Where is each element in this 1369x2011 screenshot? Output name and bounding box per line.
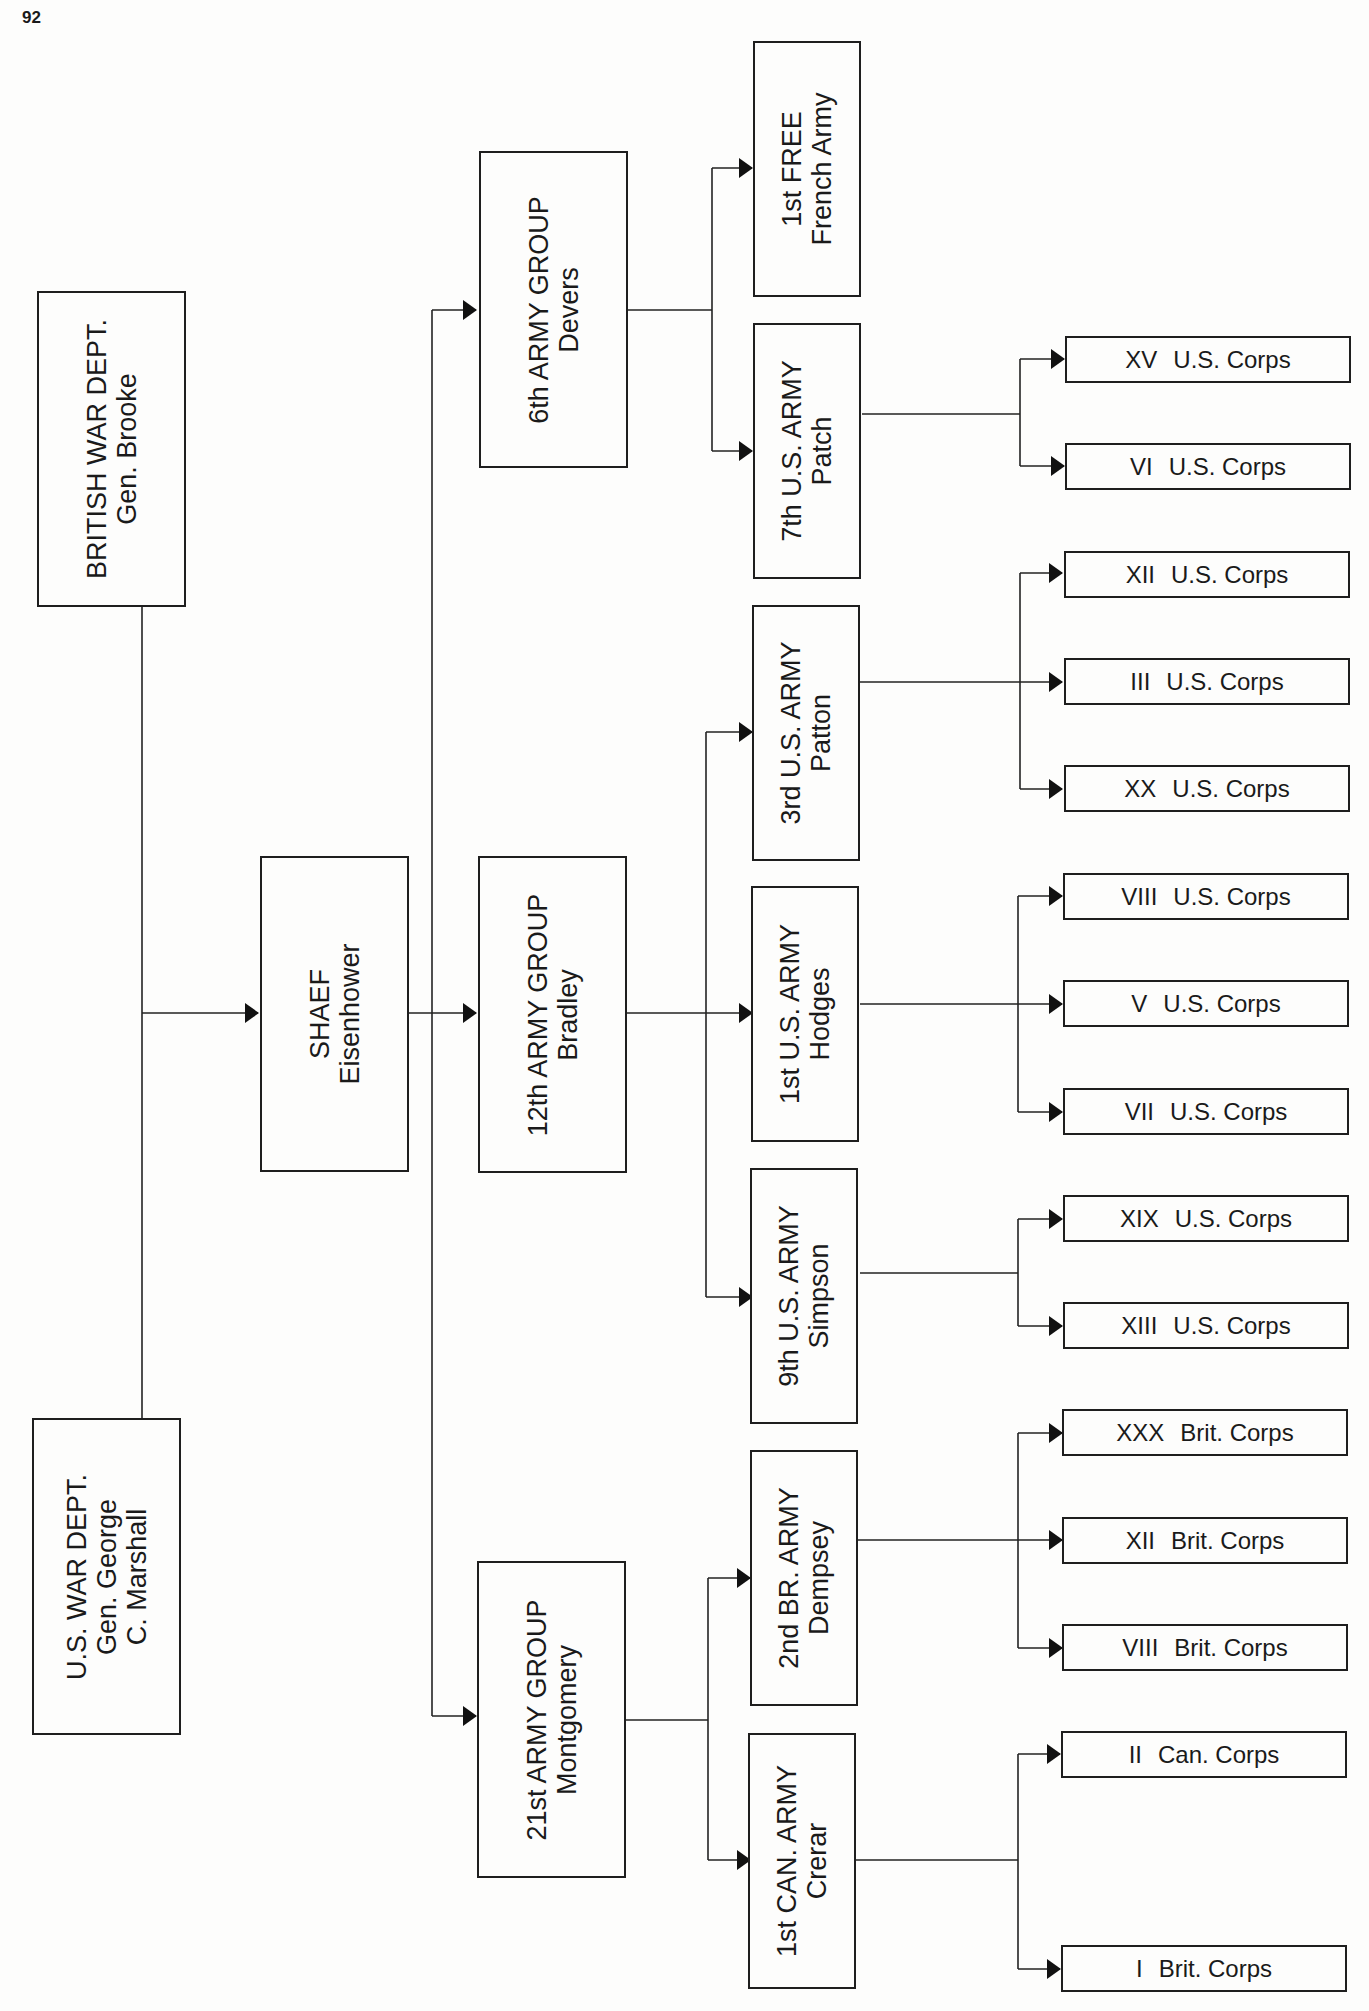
node-commander: Patton xyxy=(806,641,836,824)
node-title: 6th ARMY GROUP xyxy=(524,196,554,424)
corps-name: U.S. Corps xyxy=(1172,775,1289,803)
node-21st-army-group: 21st ARMY GROUP Montgomery xyxy=(477,1561,626,1878)
node-commander: Montgomery xyxy=(552,1599,582,1840)
node-title: 1st FREE xyxy=(777,92,807,245)
corps-number: VII xyxy=(1125,1098,1154,1126)
corps-number: II xyxy=(1129,1741,1142,1769)
corps-name: U.S. Corps xyxy=(1170,1098,1287,1126)
corps-number: XIX xyxy=(1120,1205,1159,1233)
node-title: 9th U.S. ARMY xyxy=(774,1205,804,1387)
corps-name: U.S. Corps xyxy=(1173,1312,1290,1340)
corps-box: IBrit. Corps xyxy=(1061,1945,1347,1992)
node-7th-us-army: 7th U.S. ARMY Patch xyxy=(753,323,861,579)
node-commander: Bradley xyxy=(553,893,583,1136)
corps-name: U.S. Corps xyxy=(1163,990,1280,1018)
corps-number: VIII xyxy=(1121,883,1157,911)
node-commander: Hodges xyxy=(805,924,835,1104)
node-title: 7th U.S. ARMY xyxy=(777,360,807,542)
corps-name: U.S. Corps xyxy=(1173,346,1290,374)
corps-number: V xyxy=(1131,990,1147,1018)
node-us-war-dept: U.S. WAR DEPT. Gen. George C. Marshall xyxy=(32,1418,181,1735)
corps-name: U.S. Corps xyxy=(1175,1205,1292,1233)
corps-number: VIII xyxy=(1122,1634,1158,1662)
node-title: 1st CAN. ARMY xyxy=(772,1765,802,1957)
node-1st-free-french-army: 1st FREE French Army xyxy=(753,41,861,297)
corps-box: VIIU.S. Corps xyxy=(1063,1088,1349,1135)
node-commander: Crerar xyxy=(802,1765,832,1957)
corps-box: XIIU.S. Corps xyxy=(1064,551,1350,598)
node-british-war-dept: BRITISH WAR DEPT. Gen. Brooke xyxy=(37,291,186,607)
node-title: BRITISH WAR DEPT. xyxy=(82,319,112,579)
node-12th-army-group: 12th ARMY GROUP Bradley xyxy=(478,856,627,1173)
node-commander: Eisenhower xyxy=(335,943,365,1084)
node-title: 3rd U.S. ARMY xyxy=(776,641,806,824)
node-commander-cont: C. Marshall xyxy=(122,1473,152,1679)
corps-name: U.S. Corps xyxy=(1166,668,1283,696)
node-commander: Dempsey xyxy=(804,1487,834,1669)
node-shaef: SHAEF Eisenhower xyxy=(260,856,409,1172)
corps-name: Brit. Corps xyxy=(1171,1527,1284,1555)
node-commander: Gen. Brooke xyxy=(112,319,142,579)
corps-box: VIIIU.S. Corps xyxy=(1063,873,1349,920)
corps-name: Brit. Corps xyxy=(1159,1955,1272,1983)
node-title: 2nd BR. ARMY xyxy=(774,1487,804,1669)
corps-number: XIII xyxy=(1121,1312,1157,1340)
node-title: 12th ARMY GROUP xyxy=(523,893,553,1136)
corps-box: XVU.S. Corps xyxy=(1065,336,1351,383)
node-3rd-us-army: 3rd U.S. ARMY Patton xyxy=(752,605,860,861)
node-1st-us-army: 1st U.S. ARMY Hodges xyxy=(751,886,859,1142)
node-title-cont: French Army xyxy=(807,92,837,245)
corps-box: XIIBrit. Corps xyxy=(1062,1517,1348,1564)
corps-number: XX xyxy=(1124,775,1156,803)
corps-box: XIIIU.S. Corps xyxy=(1063,1302,1349,1349)
node-commander: Devers xyxy=(554,196,584,424)
corps-number: VI xyxy=(1130,453,1153,481)
node-1st-can-army: 1st CAN. ARMY Crerar xyxy=(748,1733,856,1989)
node-2nd-br-army: 2nd BR. ARMY Dempsey xyxy=(750,1450,858,1706)
corps-box: XIXU.S. Corps xyxy=(1063,1195,1349,1242)
node-title: U.S. WAR DEPT. xyxy=(62,1473,92,1679)
corps-number: XII xyxy=(1126,1527,1155,1555)
corps-box: XXXBrit. Corps xyxy=(1062,1409,1348,1456)
corps-name: Brit. Corps xyxy=(1180,1419,1293,1447)
node-title: 1st U.S. ARMY xyxy=(775,924,805,1104)
corps-number: I xyxy=(1136,1955,1143,1983)
node-commander: Simpson xyxy=(804,1205,834,1387)
node-commander: Patch xyxy=(807,360,837,542)
corps-number: XXX xyxy=(1116,1419,1164,1447)
node-commander: Gen. George xyxy=(92,1473,122,1679)
corps-name: U.S. Corps xyxy=(1171,561,1288,589)
corps-name: U.S. Corps xyxy=(1169,453,1286,481)
corps-box: XXU.S. Corps xyxy=(1064,765,1350,812)
corps-box: VU.S. Corps xyxy=(1063,980,1349,1027)
corps-box: VIU.S. Corps xyxy=(1065,443,1351,490)
node-9th-us-army: 9th U.S. ARMY Simpson xyxy=(750,1168,858,1424)
corps-box: IICan. Corps xyxy=(1061,1731,1347,1778)
corps-name: Can. Corps xyxy=(1158,1741,1279,1769)
corps-box: VIIIBrit. Corps xyxy=(1062,1624,1348,1671)
corps-number: III xyxy=(1130,668,1150,696)
node-6th-army-group: 6th ARMY GROUP Devers xyxy=(479,151,628,468)
corps-box: IIIU.S. Corps xyxy=(1064,658,1350,705)
node-title: 21st ARMY GROUP xyxy=(522,1599,552,1840)
corps-number: XV xyxy=(1125,346,1157,374)
corps-number: XII xyxy=(1126,561,1155,589)
corps-name: U.S. Corps xyxy=(1173,883,1290,911)
corps-name: Brit. Corps xyxy=(1174,1634,1287,1662)
node-title: SHAEF xyxy=(305,943,335,1084)
